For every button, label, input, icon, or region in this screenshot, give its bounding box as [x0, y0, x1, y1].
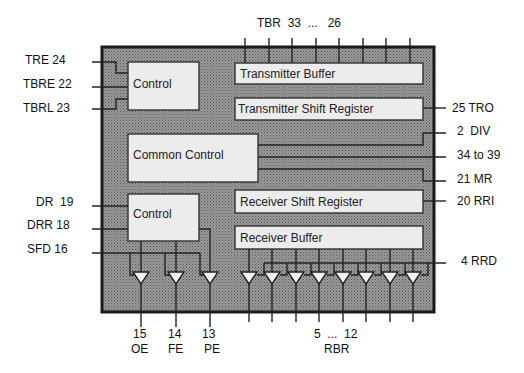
pin-label-tbrl: TBRL 23 [23, 101, 70, 115]
receiver-buffer-label: Receiver Buffer [240, 231, 322, 245]
pin-label-34-39: 34 to 39 [457, 148, 501, 162]
pin-label-fe: FE [168, 342, 183, 356]
common-control-label: Common Control [133, 148, 224, 162]
pin-label-tbre: TBRE 22 [23, 77, 72, 91]
rbr-label: RBR [324, 342, 350, 356]
transmitter-buffer-label: Transmitter Buffer [240, 67, 335, 81]
pin-label-tro: 25 TRO [452, 101, 494, 115]
pin-number-pe: 13 [202, 327, 216, 341]
pin-label-pe: PE [204, 342, 220, 356]
receiver-shift-register-label: Receiver Shift Register [240, 195, 363, 209]
pin-label-oe: OE [131, 342, 148, 356]
pin-label-sfd: SFD 16 [27, 242, 68, 256]
pin-number-oe: 15 [133, 327, 147, 341]
transmitter-shift-register-label: Transmitter Shift Register [238, 102, 374, 116]
pin-label-mr: 21 MR [457, 172, 493, 186]
pin-label-rrd: 4 RRD [461, 254, 497, 268]
pin-label-rri: 20 RRI [457, 194, 494, 208]
uart-block-diagram: Control Transmitter Buffer Transmitter S… [0, 0, 524, 373]
tx-control-label: Control [133, 77, 172, 91]
tbr-bus-label: TBR 33 ... 26 [257, 16, 341, 30]
rbr-range-label: 5 ... 12 [314, 327, 358, 341]
pin-label-drr: DRR 18 [27, 218, 70, 232]
pin-label-div: 2 DIV [457, 124, 490, 138]
pin-number-fe: 14 [168, 327, 182, 341]
rx-control-label: Control [133, 207, 172, 221]
pin-label-tre: TRE 24 [25, 53, 66, 67]
pin-label-dr: DR 19 [36, 195, 74, 209]
